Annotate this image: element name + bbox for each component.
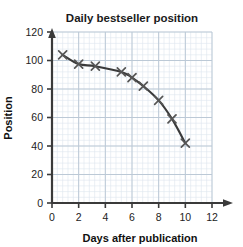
chart-container: 020406080100120 024681012 Daily bestsell… [0, 0, 243, 247]
x-axis-arrowhead [223, 199, 233, 207]
x-axis-tick-label: 0 [49, 211, 55, 223]
chart-title: Daily bestseller position [66, 12, 198, 24]
y-axis-tick-label: 40 [31, 140, 43, 152]
y-axis-tick-labels: 020406080100120 [25, 26, 43, 209]
x-axis-tick-label: 12 [206, 211, 218, 223]
y-axis-tick-label: 0 [37, 197, 43, 209]
y-axis-tick-label: 80 [31, 83, 43, 95]
x-axis-tick-label: 4 [102, 211, 108, 223]
y-axis-tick-label: 60 [31, 111, 43, 123]
x-axis-tick-labels: 024681012 [49, 211, 218, 223]
x-axis-tick-label: 8 [156, 211, 162, 223]
y-axis-title: Position [2, 96, 14, 140]
x-axis-title: Days after publication [83, 232, 198, 244]
y-axis-tick-label: 100 [25, 54, 43, 66]
bestseller-position-line-chart: 020406080100120 024681012 Daily bestsell… [0, 0, 243, 247]
x-axis-tick-label: 6 [129, 211, 135, 223]
x-axis-tick-label: 2 [76, 211, 82, 223]
y-axis-tick-label: 120 [25, 26, 43, 38]
x-axis-tick-label: 10 [179, 211, 191, 223]
y-axis-tick-label: 20 [31, 168, 43, 180]
